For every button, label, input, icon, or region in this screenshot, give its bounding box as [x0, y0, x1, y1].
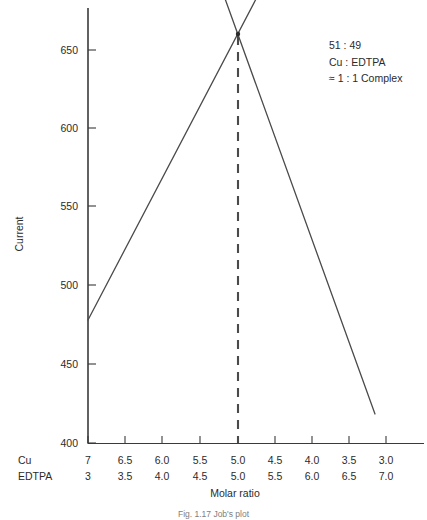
- edtpa-tick-label-6: 6.0: [297, 471, 327, 482]
- cu-tick-label-1: 6.5: [110, 455, 140, 466]
- figure-container: Current 650 600 550 500 450 400 Cu EDTPA…: [0, 0, 427, 520]
- edtpa-tick-label-2: 4.0: [147, 471, 177, 482]
- chart-annotation-block: 51 : 49 Cu : EDTPA ≈ 1 : 1 Complex: [329, 37, 402, 87]
- edtpa-tick-label-7: 6.5: [334, 471, 364, 482]
- cu-tick-label-0: 7: [73, 455, 103, 466]
- annotation-complex-line: ≈ 1 : 1 Complex: [329, 70, 402, 87]
- y-tick-label-450: 450: [44, 359, 78, 370]
- y-tick-label-550: 550: [44, 201, 78, 212]
- edtpa-tick-label-8: 7.0: [371, 471, 401, 482]
- cu-tick-label-6: 4.0: [297, 455, 327, 466]
- y-tick-label-500: 500: [44, 280, 78, 291]
- y-axis-ticks: [88, 50, 96, 443]
- cu-tick-label-7: 3.5: [334, 455, 364, 466]
- x-axis-row-label-cu: Cu: [18, 455, 31, 466]
- y-tick-label-400: 400: [44, 438, 78, 449]
- ascending-branch-line: [88, 0, 256, 320]
- x-axis-title: Molar ratio: [150, 487, 320, 499]
- edtpa-tick-label-1: 3.5: [110, 471, 140, 482]
- cu-tick-label-2: 6.0: [147, 455, 177, 466]
- y-tick-label-600: 600: [44, 123, 78, 134]
- annotation-ratio-line: 51 : 49: [329, 37, 402, 54]
- x-axis-row-label-edtpa: EDTPA: [18, 471, 52, 482]
- intersection-point-marker: [236, 32, 240, 36]
- figure-caption: Fig. 1.17 Job's plot: [0, 509, 427, 519]
- y-tick-label-650: 650: [44, 45, 78, 56]
- edtpa-tick-label-5: 5.5: [260, 471, 290, 482]
- y-axis-title: Current: [13, 199, 25, 269]
- cu-tick-label-4: 5.0: [223, 455, 253, 466]
- edtpa-tick-label-4: 5.0: [223, 471, 253, 482]
- cu-tick-label-8: 3.0: [371, 455, 401, 466]
- cu-tick-label-3: 5.5: [185, 455, 215, 466]
- cu-tick-label-5: 4.5: [260, 455, 290, 466]
- edtpa-tick-label-3: 4.5: [185, 471, 215, 482]
- annotation-species-line: Cu : EDTPA: [329, 54, 402, 71]
- edtpa-tick-label-0: 3: [73, 471, 103, 482]
